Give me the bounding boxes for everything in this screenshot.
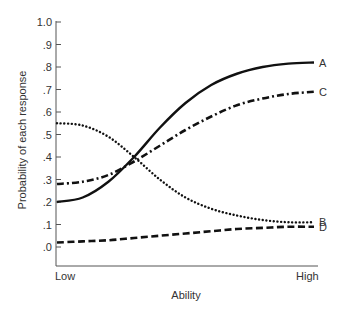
axes xyxy=(56,21,318,266)
y-tick-label: .7 xyxy=(43,84,52,96)
y-tick-label: .3 xyxy=(43,174,52,186)
y-tick-label: .2 xyxy=(43,196,52,208)
y-tick-label: 1.0 xyxy=(37,16,52,28)
x-axis-low-label: Low xyxy=(55,270,75,282)
curve-b xyxy=(57,123,314,222)
y-axis-title: Probability of each response xyxy=(16,71,28,210)
y-tick-label: .8 xyxy=(43,61,52,73)
response-curves xyxy=(57,63,314,243)
curve-d xyxy=(57,227,314,243)
item-response-chart: .0.1.2.3.4.5.6.7.8.91.0 ABCD Low High Ab… xyxy=(0,0,342,319)
series-label-a: A xyxy=(319,57,327,69)
series-label-c: C xyxy=(319,86,327,98)
y-axis-ticks: .0.1.2.3.4.5.6.7.8.91.0 xyxy=(37,16,61,253)
y-tick-label: .1 xyxy=(43,219,52,231)
curve-a xyxy=(57,63,314,203)
y-tick-label: .9 xyxy=(43,39,52,51)
x-axis-high-label: High xyxy=(296,270,319,282)
series-labels: ABCD xyxy=(319,57,327,233)
x-axis-title: Ability xyxy=(171,289,201,301)
y-tick-label: .5 xyxy=(43,129,52,141)
y-tick-label: .6 xyxy=(43,106,52,118)
y-tick-label: .4 xyxy=(43,151,52,163)
y-tick-label: .0 xyxy=(43,241,52,253)
curve-c xyxy=(57,92,314,184)
series-label-d: D xyxy=(319,221,327,233)
